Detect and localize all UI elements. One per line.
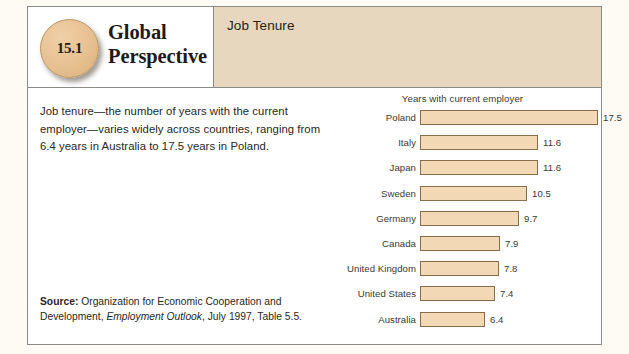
chart-rows: Poland17.5Italy11.6Japan11.6Sweden10.5Ge… <box>340 109 602 336</box>
chart-bar-row: Poland17.5 <box>340 109 602 134</box>
description-text: Job tenure—the number of years with the … <box>40 103 330 156</box>
feature-title-line1: Global <box>108 20 207 44</box>
feature-title: Global Perspective <box>108 20 207 68</box>
bar <box>420 186 527 201</box>
feature-number-badge: 15.1 <box>40 19 99 78</box>
bar <box>420 236 500 251</box>
topic-title: Job Tenure <box>227 18 295 33</box>
bar-value-label: 17.5 <box>603 112 622 123</box>
bar-category-label: Australia <box>296 314 416 325</box>
bar-category-label: Japan <box>296 162 416 173</box>
source-publication: Employment Outlook <box>106 311 202 322</box>
source-label: Source: <box>40 296 78 307</box>
feature-title-line2: Perspective <box>108 44 207 68</box>
bar-category-label: Poland <box>296 112 416 123</box>
bar-track <box>420 110 598 125</box>
feature-header-left: 15.1 Global Perspective <box>28 7 214 87</box>
chart-bar-row: Australia6.4 <box>340 311 602 336</box>
global-perspective-box: 15.1 Global Perspective Job Tenure Job t… <box>27 6 602 345</box>
chart-bar-row: Germany9.7 <box>340 210 602 235</box>
chart-bar-row: Japan11.6 <box>340 159 602 184</box>
bar <box>420 261 499 276</box>
chart-bar-row: Italy11.6 <box>340 134 602 159</box>
bar <box>420 135 538 150</box>
bar-track <box>420 160 538 175</box>
bar-track <box>420 211 519 226</box>
source-text-part2: , July 1997, Table 5.5. <box>202 311 302 322</box>
bar <box>420 160 538 175</box>
source-note: Source: Organization for Economic Cooper… <box>40 294 340 324</box>
bar-track <box>420 186 527 201</box>
bar-category-label: United States <box>296 288 416 299</box>
bar-value-label: 10.5 <box>532 188 551 199</box>
bar <box>420 211 519 226</box>
bar-value-label: 11.6 <box>543 137 561 148</box>
chart-bar-row: Sweden10.5 <box>340 185 602 210</box>
bar-category-label: United Kingdom <box>296 263 416 274</box>
bar-value-label: 7.8 <box>504 263 518 274</box>
bar-track <box>420 261 499 276</box>
bar-track <box>420 286 495 301</box>
bar-category-label: Germany <box>296 213 416 224</box>
bar-track <box>420 236 500 251</box>
page-root: 15.1 Global Perspective Job Tenure Job t… <box>0 0 629 354</box>
bar <box>420 110 598 125</box>
chart-bar-row: United Kingdom7.8 <box>340 260 602 285</box>
bar-category-label: Italy <box>296 137 416 148</box>
chart-title: Years with current employer <box>340 93 585 104</box>
bar-value-label: 11.6 <box>543 162 561 173</box>
chart-bar-row: Canada7.9 <box>340 235 602 260</box>
bar-category-label: Sweden <box>296 188 416 199</box>
bar-value-label: 6.4 <box>490 314 504 325</box>
box-body: Job tenure—the number of years with the … <box>28 88 601 344</box>
bar <box>420 286 495 301</box>
bar-category-label: Canada <box>296 238 416 249</box>
bar-value-label: 9.7 <box>524 213 538 224</box>
chart-bar-row: United States7.4 <box>340 285 602 310</box>
job-tenure-chart: Years with current employer Poland17.5It… <box>340 88 602 344</box>
topic-header-panel: Job Tenure <box>214 7 601 87</box>
bar-value-label: 7.4 <box>500 288 514 299</box>
bar <box>420 312 485 327</box>
bar-track <box>420 135 538 150</box>
bar-value-label: 7.9 <box>505 238 519 249</box>
bar-track <box>420 312 485 327</box>
box-header: 15.1 Global Perspective Job Tenure <box>28 7 601 88</box>
